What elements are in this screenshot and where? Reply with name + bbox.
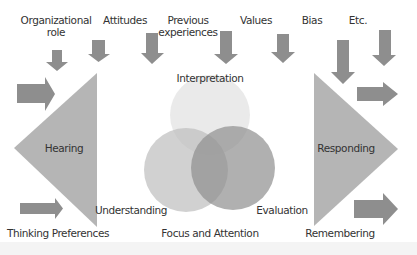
label-line: Organizational	[21, 14, 92, 26]
influence-label-previous-experiences: Previous experiences	[158, 14, 217, 38]
influence-label-organizational-role: Organizational role	[21, 14, 92, 38]
interpretation-label: Interpretation	[177, 72, 244, 84]
label-line: Values	[240, 14, 272, 26]
right-arrow-icon	[20, 198, 63, 219]
down-arrow-icon	[46, 50, 68, 71]
right-arrow-icon	[354, 193, 398, 225]
evaluation-circle	[191, 126, 275, 210]
listening-diagram: Organizational role Attitudes Previous e…	[0, 0, 417, 255]
right-arrow-icon	[357, 82, 398, 106]
label-line: Etc.	[349, 14, 367, 26]
right-arrow-icon	[17, 77, 55, 111]
label-line: experiences	[158, 26, 217, 38]
remembering-label: Remembering	[305, 227, 374, 239]
down-arrow-icon	[331, 40, 355, 84]
evaluation-label: Evaluation	[256, 204, 307, 216]
hearing-label: Hearing	[45, 142, 84, 154]
responding-label: Responding	[317, 142, 374, 154]
diagram-shapes	[0, 0, 417, 255]
thinking-preferences-label: Thinking Preferences	[7, 227, 109, 239]
label-line: Bias	[302, 14, 322, 26]
focus-and-attention-label: Focus and Attention	[161, 227, 258, 239]
understanding-label: Understanding	[95, 204, 167, 216]
influence-label-values: Values	[240, 14, 272, 26]
label-line: Attitudes	[103, 14, 147, 26]
label-line: Previous	[158, 14, 217, 26]
down-arrow-icon	[372, 30, 396, 66]
down-arrow-icon	[271, 34, 295, 63]
label-line: role	[21, 26, 92, 38]
down-arrow-icon	[88, 40, 110, 62]
bottom-band	[0, 242, 417, 255]
influence-label-attitudes: Attitudes	[103, 14, 147, 26]
influence-label-bias: Bias	[302, 14, 322, 26]
influence-label-etc: Etc.	[349, 14, 367, 26]
